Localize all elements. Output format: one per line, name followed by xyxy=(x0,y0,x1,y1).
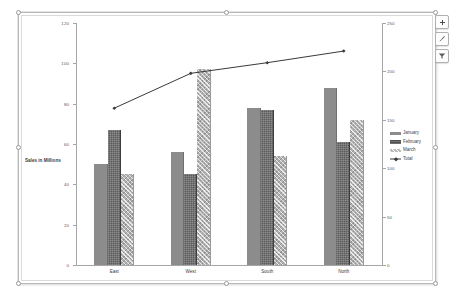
primary-axis-tick-label: 40 xyxy=(43,182,69,187)
axis-tick xyxy=(383,120,386,121)
legend-item-total[interactable]: Total xyxy=(390,157,421,162)
chart-object[interactable]: 020406080100120 050100150200250 Sales in… xyxy=(18,12,436,284)
selection-handle-bottom-right[interactable] xyxy=(433,281,438,286)
axis-tick xyxy=(383,168,386,169)
bar-january-south[interactable] xyxy=(247,108,260,265)
category-label-east: East xyxy=(110,269,119,274)
primary-axis-tick-label: 100 xyxy=(43,61,69,66)
legend-item-february[interactable]: February xyxy=(390,140,421,145)
secondary-axis-tick-label: 200 xyxy=(387,69,413,74)
selection-handle-top-center[interactable] xyxy=(224,10,229,15)
primary-axis-tick-label: 60 xyxy=(43,142,69,147)
bar-march-west[interactable] xyxy=(197,69,210,265)
legend-label: Total xyxy=(403,157,413,162)
bar-february-north[interactable] xyxy=(337,142,350,265)
bar-january-west[interactable] xyxy=(171,152,184,265)
legend-swatch-february-icon xyxy=(390,140,401,144)
primary-axis-tick-label: 80 xyxy=(43,101,69,106)
bar-march-south[interactable] xyxy=(274,156,287,265)
axis-tick xyxy=(383,71,386,72)
primary-axis-tick-label: 0 xyxy=(43,263,69,268)
axis-tick xyxy=(383,265,386,266)
bar-february-south[interactable] xyxy=(261,110,274,265)
category-label-south: South xyxy=(261,269,273,274)
selection-handle-right-center[interactable] xyxy=(433,145,438,150)
primary-axis-tick-label: 120 xyxy=(43,21,69,26)
bar-february-west[interactable] xyxy=(184,174,197,265)
legend-item-january[interactable]: January xyxy=(390,131,421,136)
legend-swatch-total-icon xyxy=(390,157,401,161)
bar-february-east[interactable] xyxy=(108,130,121,265)
secondary-axis-tick-label: 250 xyxy=(387,21,413,26)
axis-tick xyxy=(383,23,386,24)
secondary-axis-tick-label: 100 xyxy=(387,166,413,171)
legend-label: February xyxy=(403,140,421,145)
legend-label: January xyxy=(403,131,419,136)
legend-swatch-march-icon xyxy=(390,149,401,153)
legend-swatch-january-icon xyxy=(390,132,401,136)
plot-area-bars[interactable] xyxy=(76,23,382,265)
axis-title-y[interactable]: Sales in Millions xyxy=(25,158,61,163)
category-axis-line xyxy=(76,265,383,266)
selection-handle-bottom-center[interactable] xyxy=(224,281,229,286)
chart-filters-button[interactable] xyxy=(435,49,449,63)
secondary-axis-tick-label: 150 xyxy=(387,117,413,122)
bar-march-east[interactable] xyxy=(121,174,134,265)
legend-item-march[interactable]: March xyxy=(390,148,421,153)
primary-axis-tick-label: 20 xyxy=(43,222,69,227)
paintbrush-icon xyxy=(438,35,446,43)
bar-january-north[interactable] xyxy=(324,88,337,265)
selection-handle-top-left[interactable] xyxy=(16,10,21,15)
secondary-value-axis-line xyxy=(382,23,383,266)
legend-label: March xyxy=(403,148,416,153)
selection-handle-left-center[interactable] xyxy=(16,145,21,150)
bar-january-east[interactable] xyxy=(94,164,107,265)
category-label-north: North xyxy=(338,269,349,274)
chart-legend[interactable]: JanuaryFebruaryMarchTotal xyxy=(390,131,421,165)
secondary-axis-tick-label: 50 xyxy=(387,214,413,219)
axis-tick xyxy=(73,265,76,266)
bar-march-north[interactable] xyxy=(350,120,363,265)
category-label-west: West xyxy=(186,269,196,274)
secondary-axis-tick-label: 0 xyxy=(387,263,413,268)
axis-tick xyxy=(383,217,386,218)
chart-side-buttons[interactable] xyxy=(435,15,449,63)
chart-elements-button[interactable] xyxy=(435,15,449,29)
chart-styles-button[interactable] xyxy=(435,32,449,46)
filter-icon xyxy=(438,52,446,60)
plus-icon xyxy=(439,19,446,26)
selection-handle-bottom-left[interactable] xyxy=(16,281,21,286)
